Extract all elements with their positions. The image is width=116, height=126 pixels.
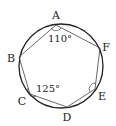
cyclic-hexagon-diagram: A F E D C B 110° 125° bbox=[0, 0, 116, 126]
vertex-label-e: E bbox=[98, 90, 106, 103]
angle-label-a: 110° bbox=[48, 33, 72, 44]
vertex-label-b: B bbox=[7, 52, 15, 65]
vertex-label-c: C bbox=[18, 95, 26, 108]
vertex-label-a: A bbox=[51, 9, 61, 22]
vertex-label-f: F bbox=[102, 41, 110, 54]
angle-label-c: 125° bbox=[36, 83, 60, 94]
vertex-label-d: D bbox=[63, 111, 72, 124]
